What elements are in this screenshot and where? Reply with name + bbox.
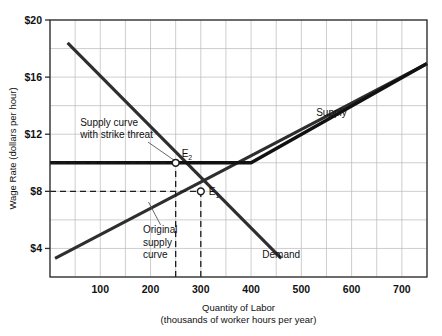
- y-tick-label: $8: [30, 185, 42, 197]
- curve-label-demand: Demand: [262, 249, 300, 260]
- x-tick-label: 400: [242, 283, 260, 295]
- x-tick-label: 500: [293, 283, 311, 295]
- annotation-line: supply: [143, 237, 172, 248]
- x-axis-title: Quantity of Labor: [202, 302, 275, 313]
- y-axis-title: Wage Rate (dollars per hour): [7, 87, 18, 209]
- annotation-line: Original: [143, 224, 177, 235]
- x-tick-label: 200: [142, 283, 160, 295]
- curve-label-supply: Supply: [316, 107, 347, 118]
- supply-demand-chart: DemandSupply 100200300400500600700$4$8$1…: [0, 0, 442, 336]
- annotation-line: Supply curve: [80, 117, 138, 128]
- y-tick-label: $20: [24, 14, 42, 26]
- x-axis-subtitle: (thousands of worker hours per year): [161, 314, 317, 325]
- x-tick-label: 600: [343, 283, 361, 295]
- x-tick-label: 300: [192, 283, 210, 295]
- annotation-line: curve: [143, 249, 168, 260]
- equilibrium-marker: [197, 188, 204, 195]
- y-tick-label: $12: [24, 128, 42, 140]
- x-tick-label: 700: [393, 283, 411, 295]
- equilibrium-marker: [172, 159, 179, 166]
- annotation-line: with strike threat: [79, 129, 153, 140]
- x-tick-label: 100: [92, 283, 110, 295]
- chart-background: [0, 0, 442, 336]
- y-tick-label: $4: [30, 242, 42, 254]
- y-tick-label: $16: [24, 71, 42, 83]
